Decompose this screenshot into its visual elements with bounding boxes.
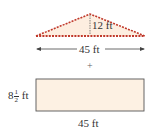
rectangle-base-label: 45 ft: [78, 118, 98, 129]
rectangle-side-label: 812 ft: [8, 89, 28, 104]
arrowhead-right-icon: [140, 47, 145, 51]
triangle-base-label: 45 ft: [78, 44, 100, 55]
side-fraction: 12: [14, 89, 20, 104]
fraction-denominator: 2: [14, 97, 20, 104]
arrowhead-left-icon: [36, 47, 41, 51]
diagram-canvas: [0, 0, 150, 134]
triangle-height-label: 12 ft: [92, 20, 112, 31]
side-unit: ft: [22, 89, 29, 101]
triangle-shape: [36, 14, 145, 36]
plus-operator: +: [87, 61, 93, 71]
rectangle-shape: [36, 79, 144, 111]
